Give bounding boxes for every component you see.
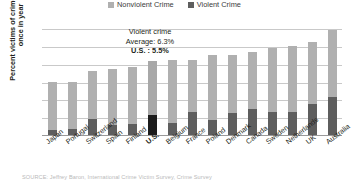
legend-item-violent-crime[interactable]: Violent Crime <box>188 1 241 8</box>
annotation-line-1: Violent crime <box>96 27 204 37</box>
x-tick-column: Sweden <box>262 138 282 180</box>
bar-segment-nonviolent[interactable] <box>68 82 77 129</box>
x-tick-column: UK <box>302 138 322 180</box>
stacked-bar[interactable] <box>208 55 217 135</box>
bar-column[interactable] <box>262 22 282 135</box>
bar-segment-nonviolent[interactable] <box>328 30 337 97</box>
stacked-bar[interactable] <box>288 46 297 135</box>
bar-segment-nonviolent[interactable] <box>48 82 57 131</box>
stacked-bar[interactable] <box>168 60 177 135</box>
stacked-bar[interactable] <box>48 82 57 135</box>
bar-segment-nonviolent[interactable] <box>168 60 177 123</box>
y-axis-title-wrapper: Percent victims of crime at least once i… <box>10 0 24 86</box>
stacked-bar[interactable] <box>68 82 77 135</box>
bar-segment-nonviolent[interactable] <box>188 60 197 111</box>
chart-annotation: Violent crime Average: 6.3% U.S. : 5.5% <box>96 27 204 56</box>
bar-segment-nonviolent[interactable] <box>248 52 257 110</box>
bar-column[interactable] <box>242 22 262 135</box>
bar-segment-nonviolent[interactable] <box>288 46 297 112</box>
stacked-bar[interactable] <box>328 30 337 135</box>
annotation-line-3: U.S. : 5.5% <box>96 46 204 56</box>
bar-segment-nonviolent[interactable] <box>208 55 217 119</box>
legend-label-violent: Violent Crime <box>197 1 241 8</box>
legend-label-nonviolent: Nonviolent Crime <box>117 1 174 8</box>
legend-item-nonviolent-crime[interactable]: Nonviolent Crime <box>108 1 174 8</box>
annotation-line-2: Average: 6.3% <box>96 37 204 47</box>
stacked-bar[interactable] <box>188 60 197 135</box>
bar-column[interactable] <box>42 22 62 135</box>
x-tick-column: Netherlands <box>282 138 302 180</box>
stacked-bar[interactable] <box>128 67 137 135</box>
source-note: SOURCE: Jeffrey Baron, International Cri… <box>22 174 212 180</box>
bar-column[interactable] <box>222 22 242 135</box>
legend-swatch-nonviolent-icon <box>108 2 114 8</box>
y-axis-title: Percent victims of crime at least once i… <box>9 0 26 86</box>
stacked-bar[interactable] <box>148 61 157 135</box>
bar-segment-nonviolent[interactable] <box>128 67 137 123</box>
bar-column[interactable] <box>282 22 302 135</box>
stacked-bar[interactable] <box>268 48 277 135</box>
stacked-bar[interactable] <box>88 71 97 135</box>
x-tick-column: Canada <box>242 138 262 180</box>
bar-segment-nonviolent[interactable] <box>308 42 317 103</box>
bar-segment-nonviolent[interactable] <box>88 71 97 119</box>
bar-segment-nonviolent[interactable] <box>148 61 157 116</box>
bar-segment-nonviolent[interactable] <box>268 48 277 112</box>
legend-swatch-violent-icon <box>188 2 194 8</box>
bar-column[interactable] <box>62 22 82 135</box>
bar-column[interactable] <box>202 22 222 135</box>
x-tick-column: Australia <box>322 138 342 180</box>
bar-segment-nonviolent[interactable] <box>228 55 237 114</box>
bar-column[interactable] <box>322 22 342 135</box>
x-tick-column: Denmark <box>222 138 242 180</box>
stacked-bar[interactable] <box>228 55 237 136</box>
chart-legend: Nonviolent Crime Violent Crime <box>108 1 241 8</box>
